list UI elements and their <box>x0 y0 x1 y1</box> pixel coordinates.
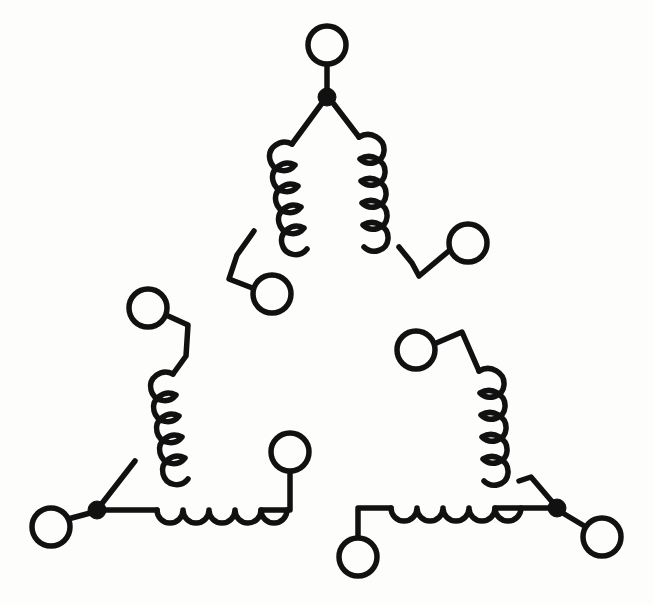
wire-bottom-right-stem <box>358 508 391 538</box>
winding-left <box>151 372 188 484</box>
terminal-upper-left-winding[interactable] <box>253 275 291 313</box>
winding-top-right <box>359 135 388 252</box>
bottom-left-junction[interactable] <box>88 501 106 519</box>
terminal-left-upper[interactable] <box>129 289 167 327</box>
wire-right-lead-upper <box>434 332 479 371</box>
terminal-top[interactable] <box>308 26 346 64</box>
terminal-bottom-mid-left[interactable] <box>271 433 309 471</box>
wire-top-left-lead-lower <box>229 231 255 289</box>
diagram-canvas: Three-phase delta-connected winding sche… <box>0 0 653 605</box>
terminal-upper-right-winding[interactable] <box>449 224 487 262</box>
top-junction[interactable] <box>318 88 336 106</box>
terminal-right-upper[interactable] <box>397 331 435 369</box>
bottom-right-junction[interactable] <box>548 499 566 517</box>
wire-top-right-lead-lower <box>399 247 450 276</box>
left-vertex-group <box>68 315 290 523</box>
wire-right-lead-lower <box>519 477 554 504</box>
terminal-layer <box>32 26 621 576</box>
winding-right <box>479 369 508 486</box>
coil-left <box>151 372 188 484</box>
coil-right <box>479 369 508 486</box>
terminal-left-lower[interactable] <box>32 508 70 546</box>
wire-right-terminal-lead <box>561 512 586 527</box>
winding-top-left <box>270 142 307 254</box>
winding-diagram <box>0 0 653 605</box>
terminal-bottom-mid-right[interactable] <box>339 538 377 576</box>
terminal-right-lower[interactable] <box>583 518 621 556</box>
wire-top-right-lead-upper <box>330 99 359 137</box>
wire-bottom-left-bus-right <box>261 471 290 510</box>
wire-left-lead-upper <box>166 315 188 374</box>
coil-top-left <box>270 142 307 254</box>
wire-top-left-lead-upper <box>292 99 325 144</box>
wire-left-lead-lower <box>100 461 135 506</box>
top-vertex-group <box>229 64 450 289</box>
coil-top-right <box>359 135 388 252</box>
